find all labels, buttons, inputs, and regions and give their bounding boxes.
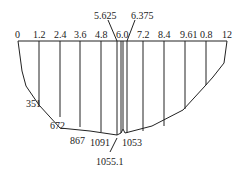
top-label-6: 7.2 bbox=[137, 30, 150, 40]
bottom-label-867: 867 bbox=[70, 136, 85, 146]
callout-5625: 5.625 bbox=[94, 11, 117, 21]
bottom-label-351: 351 bbox=[26, 99, 41, 109]
top-label-2: 2.4 bbox=[54, 30, 67, 40]
top-label-1: 1.2 bbox=[33, 30, 46, 40]
bottom-label-1053: 1053 bbox=[122, 138, 142, 148]
top-label-3: 3.6 bbox=[74, 30, 87, 40]
top-label-0: 0 bbox=[15, 30, 20, 40]
callout-1055: 1055.1 bbox=[96, 157, 124, 167]
top-label-4: 4.8 bbox=[95, 30, 108, 40]
cross-section-diagram bbox=[0, 0, 244, 175]
top-label-7: 8.4 bbox=[158, 30, 171, 40]
top-label-5: 6.0 bbox=[116, 30, 129, 40]
top-label-8: 9.61 bbox=[180, 30, 198, 40]
top-label-9: 0.8 bbox=[200, 30, 213, 40]
bottom-label-672: 672 bbox=[50, 121, 65, 131]
bottom-label-1091: 1091 bbox=[90, 138, 110, 148]
callout-6375: 6.375 bbox=[131, 11, 154, 21]
top-label-10: 12 bbox=[222, 30, 232, 40]
